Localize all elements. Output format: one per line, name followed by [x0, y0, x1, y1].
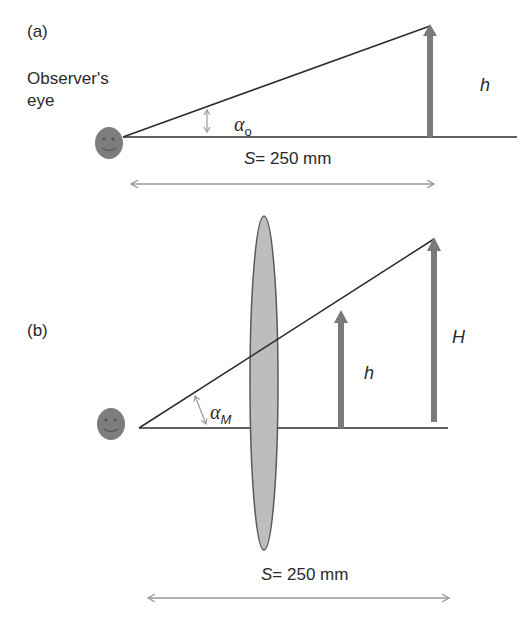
image-arrow-H — [427, 237, 441, 422]
magnifier-diagram — [0, 0, 531, 622]
panel-a-label: (a) — [27, 23, 48, 40]
distance-label: S= 250 mm — [244, 150, 331, 167]
angle-indicator — [195, 396, 206, 424]
panel-b — [97, 216, 449, 598]
magnifier-lens — [250, 216, 278, 550]
distance-value: = 250 mm — [272, 565, 348, 584]
panel-b-label: (b) — [27, 322, 48, 339]
image-height-label: H — [452, 328, 465, 346]
object-height-label: h — [480, 76, 490, 94]
angle-symbol: α — [234, 113, 245, 135]
observer-eye-label-line1: Observer's — [27, 70, 109, 87]
angle-subscript: M — [221, 412, 232, 427]
eye-icon — [97, 408, 125, 440]
object-arrow-h — [334, 310, 348, 428]
distance-value: = 250 mm — [255, 149, 331, 168]
angle-symbol: α — [210, 401, 221, 423]
distance-variable: S — [261, 565, 272, 584]
object-height-label: h — [364, 364, 374, 382]
sight-ray — [123, 26, 430, 137]
angle-subscript: o — [245, 124, 252, 139]
angle-alpha-o-label: αo — [234, 114, 252, 138]
angle-alpha-m-label: αM — [210, 402, 231, 426]
sight-ray — [139, 239, 434, 428]
distance-label: S= 250 mm — [261, 566, 348, 583]
object-arrow-h — [423, 24, 437, 137]
distance-variable: S — [244, 149, 255, 168]
observer-eye-label-line2: eye — [27, 92, 54, 109]
eye-icon — [95, 127, 123, 159]
